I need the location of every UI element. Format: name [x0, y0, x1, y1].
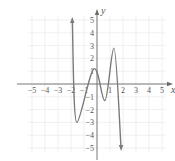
x-axis-label: x: [170, 84, 175, 95]
x-tick-label: 2: [121, 86, 125, 95]
y-tick-label: 5: [90, 16, 94, 25]
y-axis-label: y: [100, 5, 106, 16]
y-tick-label: −5: [85, 144, 94, 153]
x-tick-label: 4: [147, 86, 151, 95]
y-axis-arrow-icon: [95, 9, 99, 15]
y-tick-label: 3: [90, 42, 94, 51]
y-tick-label: −4: [85, 131, 94, 140]
tick-labels: −5−4−3−2−11234554321−1−2−3−4−5: [28, 16, 164, 153]
x-tick-label: 5: [160, 86, 164, 95]
axes: [17, 9, 173, 160]
function-graph: −5−4−3−2−11234554321−1−2−3−4−5 x y: [0, 0, 175, 161]
y-tick-label: −1: [85, 93, 94, 102]
y-tick-label: −2: [85, 106, 94, 115]
y-tick-label: 2: [90, 54, 94, 63]
x-tick-label: 3: [134, 86, 138, 95]
x-tick-label: −3: [54, 86, 63, 95]
y-tick-label: −3: [85, 118, 94, 127]
x-tick-label: −5: [28, 86, 37, 95]
y-tick-label: 4: [90, 29, 94, 38]
x-tick-label: −4: [41, 86, 50, 95]
